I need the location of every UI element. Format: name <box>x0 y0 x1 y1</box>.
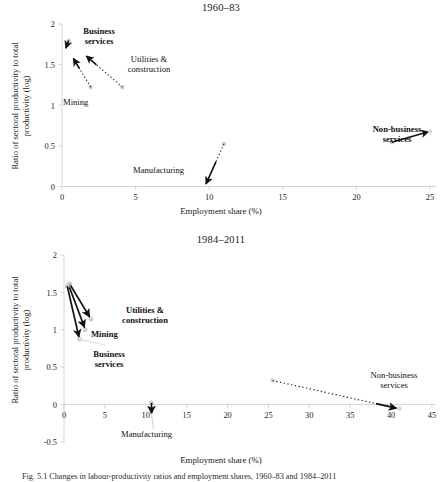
annotation-non-business-services-bottom: Non-business services <box>352 370 436 390</box>
annotation-non-business-services-top: Non-business services <box>355 124 439 144</box>
annotation-utilities-construction-top-line1: Utilities & <box>131 54 168 64</box>
annotation-business-services-top-line1: Business <box>83 26 115 36</box>
series-manufacturing-top <box>206 142 226 184</box>
x-tick-label-bottom-3: 15 <box>183 411 191 420</box>
x-tick-label-bottom-0: 0 <box>62 411 66 420</box>
annotation-manufacturing-bottom: Manufacturing <box>121 429 172 439</box>
annotation-business-services-top-line2: services <box>85 36 114 46</box>
annotation-non-business-services-bottom-line2: services <box>380 380 408 390</box>
annotation-utilities-construction-bottom: Utilities & construction <box>105 305 185 325</box>
annotation-manufacturing-top: Manufacturing <box>133 165 184 175</box>
x-tick-label-bottom-2: 10 <box>142 411 150 420</box>
y-tick-label-bottom-3: 0.5 <box>47 363 57 372</box>
y-tick-label-top-3: 0.5 <box>45 142 55 151</box>
chart-panel-1960-83: 1960–83 Ratio of sectoral productivity t… <box>0 0 442 230</box>
annotation-non-business-services-bottom-line1: Non-business <box>371 370 418 380</box>
annotation-business-services-bottom-line2: services <box>95 359 124 369</box>
y-tick-label-top-1: 1.5 <box>45 61 55 70</box>
x-tick-label-bottom-4: 20 <box>223 411 231 420</box>
x-tick-marks-bottom <box>64 404 432 408</box>
annotation-business-services-top: Business services <box>64 26 134 46</box>
y-tick-label-bottom-0: 2 <box>53 251 57 260</box>
x-tick-label-top-1: 5 <box>134 193 138 202</box>
annotation-utilities-construction-top-line2: construction <box>128 64 170 74</box>
x-tick-label-top-0: 0 <box>60 193 64 202</box>
x-tick-label-bottom-7: 35 <box>346 411 354 420</box>
y-tick-label-top-2: 1 <box>51 102 55 111</box>
x-tick-label-top-5: 25 <box>426 193 434 202</box>
y-tick-label-top-0: 2 <box>51 20 55 29</box>
x-tick-label-bottom-5: 25 <box>264 411 272 420</box>
x-axis-label-bottom: Employment share (%) <box>0 455 442 465</box>
x-tick-label-top-2: 10 <box>205 193 213 202</box>
series-mining-top <box>73 59 93 90</box>
y-tick-label-bottom-1: 1.5 <box>47 289 57 298</box>
x-tick-marks-top <box>62 187 430 191</box>
annotation-utilities-construction-bottom-line1: Utilities & <box>126 305 164 315</box>
y-tick-label-bottom-4: 0 <box>53 401 57 410</box>
x-axis-label-top: Employment share (%) <box>0 206 442 216</box>
annotation-non-business-services-top-line1: Non-business <box>373 124 422 134</box>
chart-panel-1984-2011: 1984–2011 Ratio of sectoral productivity… <box>0 230 442 460</box>
x-tick-label-bottom-1: 5 <box>103 411 107 420</box>
annotation-business-services-bottom-line1: Business <box>93 349 125 359</box>
y-tick-label-bottom-5: -0.5 <box>44 438 57 447</box>
plot-area-bottom: 2 1.5 1 0.5 0 -0.5 0 5 10 15 <box>0 230 442 460</box>
x-tick-label-bottom-9: 45 <box>428 411 436 420</box>
annotation-mining-bottom: Mining <box>91 329 118 339</box>
figure-caption: Fig. 5.1 Changes in labour-productivity … <box>22 471 434 482</box>
annotation-mining-top: Mining <box>63 97 88 107</box>
annotation-utilities-construction-top: Utilities & construction <box>110 54 188 74</box>
y-tick-marks-top <box>59 24 63 187</box>
y-tick-label-bottom-2: 1 <box>53 326 57 335</box>
y-tick-label-top-4: 0 <box>51 183 55 192</box>
annotation-non-business-services-top-line2: services <box>383 134 412 144</box>
annotation-business-services-bottom: Business services <box>78 349 140 369</box>
x-tick-label-bottom-8: 40 <box>387 411 395 420</box>
x-tick-label-top-3: 15 <box>279 193 287 202</box>
x-tick-label-top-4: 20 <box>352 193 360 202</box>
x-tick-label-bottom-6: 30 <box>305 411 313 420</box>
figure-container: 1960–83 Ratio of sectoral productivity t… <box>0 0 442 482</box>
annotation-utilities-construction-bottom-line2: construction <box>122 315 168 325</box>
